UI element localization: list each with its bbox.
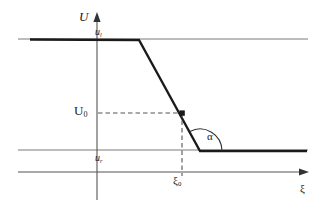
u0-value-label: U0: [74, 104, 87, 117]
intersection-point-marker: [179, 110, 184, 115]
alpha-angle-label: α: [207, 131, 213, 142]
figure-canvas: [0, 0, 325, 212]
u-axis-arrowhead-icon: [93, 12, 100, 22]
figure-container: U ul U0 ur ξ0 ξ α: [0, 0, 325, 212]
xi-axis-arrowhead-icon: [299, 168, 309, 175]
lower-level-label: ur: [95, 153, 102, 163]
u0-subscript: 0: [84, 110, 88, 119]
xi-axis-label: ξ: [300, 183, 305, 194]
upper-level-subscript: l: [100, 31, 102, 38]
xi0-subscript: 0: [178, 180, 181, 187]
kink-profile-curve: [30, 40, 307, 152]
u0-symbol: U: [74, 103, 83, 118]
xi0-value-label: ξ0: [173, 175, 181, 186]
upper-level-label: ul: [95, 27, 102, 37]
lower-level-subscript: r: [100, 157, 102, 164]
u-axis-label: U: [79, 10, 88, 23]
